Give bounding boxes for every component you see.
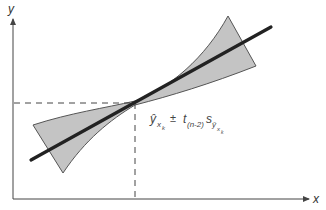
confidence-band-diagram: y x ŷ x k ± t (n-2) s ŷ x k bbox=[0, 0, 326, 210]
y-axis-label: y bbox=[7, 2, 15, 16]
x-axis-label: x bbox=[312, 192, 320, 206]
formula-yhat-sub-k: k bbox=[162, 125, 166, 131]
formula-t-sub: (n-2) bbox=[187, 120, 204, 129]
confidence-band bbox=[33, 16, 256, 173]
formula-s-sub-k: k bbox=[221, 129, 224, 135]
formula-plus-minus: ± bbox=[170, 112, 176, 124]
regression-line bbox=[31, 27, 271, 160]
formula-yhat: ŷ bbox=[149, 112, 157, 126]
interval-formula: ŷ x k ± t (n-2) s ŷ x k bbox=[149, 112, 224, 135]
